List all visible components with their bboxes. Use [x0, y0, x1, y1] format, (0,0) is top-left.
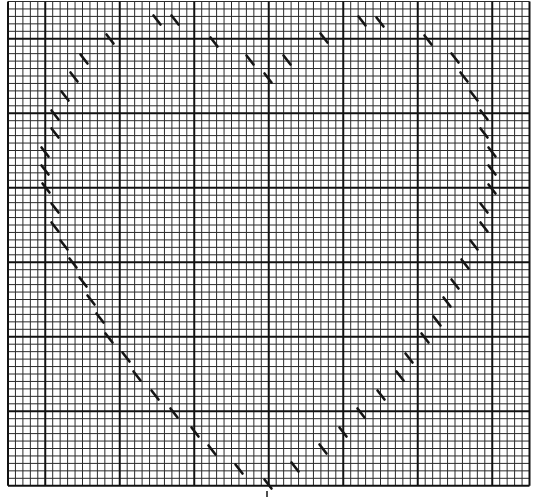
stitch-mark — [461, 73, 468, 82]
stitch-mark — [471, 241, 478, 250]
stitch-mark — [481, 129, 488, 138]
stitch-mark — [71, 73, 78, 82]
stitch-mark — [434, 317, 441, 326]
stitch-mark — [61, 241, 68, 250]
stitch-mark — [123, 353, 130, 362]
stitch-mark — [471, 92, 478, 101]
stitch-mark — [481, 223, 488, 232]
stitch-mark — [106, 334, 113, 343]
cross-stitch-chart — [0, 0, 542, 498]
stitch-mark — [481, 204, 488, 213]
stitch-mark — [284, 56, 291, 65]
stitch-mark — [481, 111, 488, 120]
stitch-mark — [444, 298, 451, 307]
stitch-mark — [406, 354, 413, 363]
grid-major-lines — [8, 2, 530, 486]
stitch-mark — [81, 55, 88, 64]
stitch-mark — [247, 56, 254, 65]
